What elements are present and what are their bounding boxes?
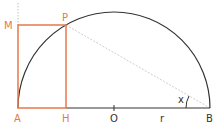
label-angle-x: x [178, 94, 184, 105]
label-h: H [62, 113, 70, 124]
dotted-chord-pb [66, 25, 210, 108]
label-o: O [110, 113, 118, 124]
angle-arc-b [186, 96, 189, 108]
label-a: A [14, 113, 21, 124]
rectangle-ahpm [18, 25, 66, 108]
semicircle-diagram: M P A H O r B x [0, 0, 218, 129]
label-b: B [206, 113, 213, 124]
label-m: M [4, 20, 13, 31]
label-p: P [62, 12, 68, 23]
label-r: r [160, 113, 165, 124]
